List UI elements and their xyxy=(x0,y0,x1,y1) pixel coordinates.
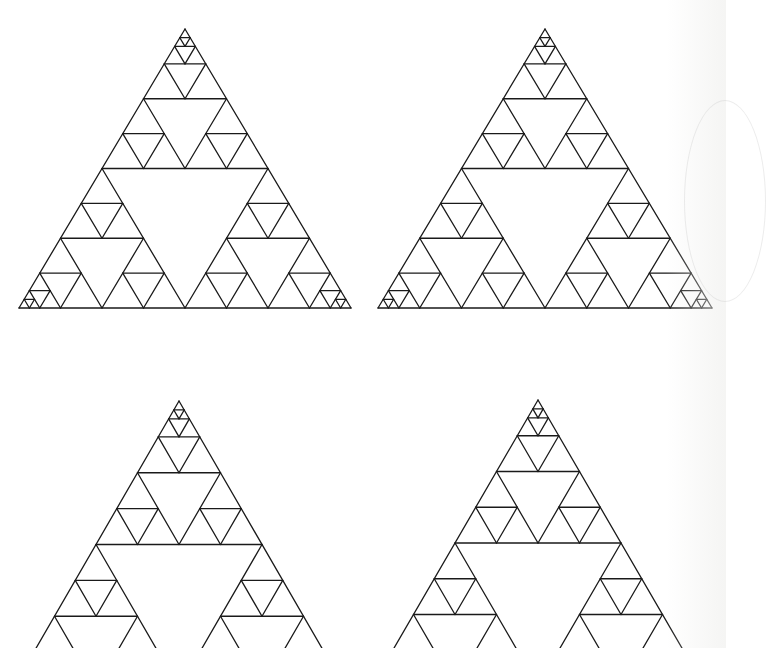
sierpinski-triangle-bottom-right xyxy=(372,400,704,648)
sierpinski-triangle-bottom-left xyxy=(13,401,345,648)
sierpinski-triangle-top-right xyxy=(378,29,712,308)
sierpinski-triangle-top-left xyxy=(19,29,351,308)
